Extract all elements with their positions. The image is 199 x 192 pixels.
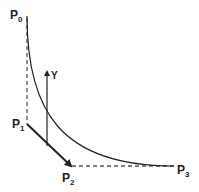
svg-text:3: 3	[185, 170, 190, 179]
svg-text:P: P	[10, 8, 18, 22]
svg-text:P: P	[62, 171, 70, 185]
svg-text:0: 0	[18, 15, 23, 24]
label-p2: P 2	[62, 171, 75, 187]
label-p3: P 3	[177, 163, 190, 179]
label-p1: P 1	[12, 117, 25, 133]
bezier-curve-diagram: P 0 Y P 1 P 2 P 3	[0, 0, 199, 192]
label-y: Y	[51, 70, 58, 81]
svg-text:Y: Y	[51, 70, 58, 81]
svg-text:2: 2	[70, 178, 75, 187]
label-p0: P 0	[10, 8, 23, 24]
svg-text:P: P	[177, 163, 185, 177]
svg-text:1: 1	[20, 124, 25, 133]
svg-text:P: P	[12, 117, 20, 131]
bezier-curve	[27, 16, 174, 166]
arrow-p1-p2	[27, 124, 71, 166]
